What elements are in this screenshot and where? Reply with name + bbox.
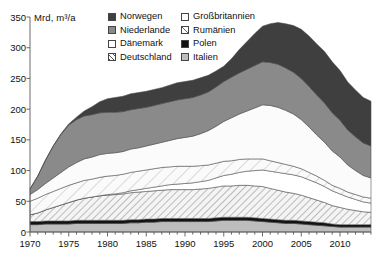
legend-item-polen[interactable]: Polen xyxy=(181,39,217,48)
x-axis-tick-label: 2000 xyxy=(246,238,280,249)
legend-label: Norwegen xyxy=(120,12,162,21)
legend-label: Niederlande xyxy=(120,26,170,35)
legend-label: Großbritannien xyxy=(193,12,255,21)
y-axis-tick-label: 300 xyxy=(0,42,26,53)
legend-label: Polen xyxy=(193,39,217,48)
legend-swatch-dark-gray-solid-icon xyxy=(108,13,116,21)
y-axis-tick-label: 0 xyxy=(0,227,26,238)
y-axis-tick-label: 50 xyxy=(0,196,26,207)
y-axis-tick-label: 100 xyxy=(0,165,26,176)
legend-swatch-medium-gray-solid-icon xyxy=(108,26,116,34)
x-axis-tick-label: 1985 xyxy=(129,238,163,249)
y-axis-tick-label: 250 xyxy=(0,73,26,84)
legend-label: Rumänien xyxy=(193,26,235,35)
legend-item-italien[interactable]: Italien xyxy=(181,53,218,62)
x-axis-tick-label: 1975 xyxy=(52,238,86,249)
legend-item-norwegen[interactable]: Norwegen xyxy=(108,12,162,21)
legend-swatch-fine-diagonal-hatch-icon xyxy=(181,26,189,34)
x-axis-tick-label: 1980 xyxy=(91,238,125,249)
legend-swatch-very-light-solid-icon xyxy=(181,13,189,21)
y-axis-tick-label: 200 xyxy=(0,104,26,115)
y-axis-tick-label: 350 xyxy=(0,12,26,23)
legend-item-niederlande[interactable]: Niederlande xyxy=(108,26,170,35)
legend-swatch-white-solid-icon xyxy=(108,40,116,48)
stacked-area-chart: Mrd, m³/a 350300250200150100500 19701975 xyxy=(0,0,377,269)
legend-item-gro-britannien[interactable]: Großbritannien xyxy=(181,12,255,21)
x-axis-tick-label: 2005 xyxy=(284,238,318,249)
legend-item-d-nemark[interactable]: Dänemark xyxy=(108,39,163,48)
legend-item-deutschland[interactable]: Deutschland xyxy=(108,53,172,62)
x-axis-tick-label: 1990 xyxy=(168,238,202,249)
legend-label: Deutschland xyxy=(120,53,172,62)
legend-swatch-black-solid-icon xyxy=(181,40,189,48)
legend-item-rum-nien[interactable]: Rumänien xyxy=(181,26,235,35)
x-axis-tick-label: 2010 xyxy=(323,238,357,249)
x-axis-tick-label: 1995 xyxy=(207,238,241,249)
legend-label: Dänemark xyxy=(120,39,163,48)
legend-label: Italien xyxy=(193,53,218,62)
y-axis-tick-label: 150 xyxy=(0,134,26,145)
legend-swatch-light-gray-solid-icon xyxy=(181,53,189,61)
x-axis-tick-label: 1970 xyxy=(13,238,47,249)
legend-swatch-diagonal-hatch-icon xyxy=(108,53,116,61)
